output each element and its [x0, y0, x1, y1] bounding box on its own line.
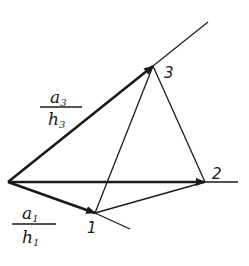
triangle-side-1-2	[95, 182, 205, 213]
point-label-2: 2	[212, 165, 222, 183]
h1-denominator: h	[22, 227, 33, 247]
h1-subscript: 1	[33, 237, 39, 248]
svg-text:h1: h1	[22, 227, 39, 248]
fraction-a3-over-h3: a3 h3	[40, 87, 82, 130]
svg-text:a1: a1	[22, 203, 39, 224]
triangle-side-3-2	[153, 66, 205, 182]
extension-line-3	[153, 22, 208, 66]
a1-subscript: 1	[32, 213, 38, 224]
fraction-a1-over-h1: a1 h1	[12, 203, 56, 248]
extension-line-1	[95, 213, 130, 229]
svg-text:h3: h3	[48, 109, 65, 130]
a1-numerator: a	[22, 203, 32, 223]
a3-numerator: a	[50, 87, 60, 107]
svg-text:a3: a3	[50, 87, 67, 108]
point-label-1: 1	[87, 219, 97, 237]
vector-diagram: 3 2 1 a3 h3 a1 h1	[0, 0, 249, 266]
point-label-3: 3	[164, 64, 174, 82]
h3-subscript: 3	[59, 119, 65, 130]
vector-to-point-3	[8, 66, 153, 182]
h3-denominator: h	[48, 109, 59, 129]
